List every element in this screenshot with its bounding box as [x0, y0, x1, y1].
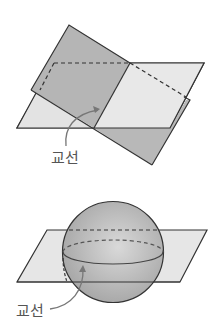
- sphere-plane-figure: 교선: [16, 202, 207, 321]
- intersection-label-bottom: 교선: [16, 302, 44, 320]
- intersection-label-top: 교선: [51, 149, 79, 167]
- diagram-canvas: 교선 교선: [0, 0, 224, 334]
- intersecting-planes-figure: 교선: [17, 25, 204, 167]
- sphere: [63, 202, 164, 303]
